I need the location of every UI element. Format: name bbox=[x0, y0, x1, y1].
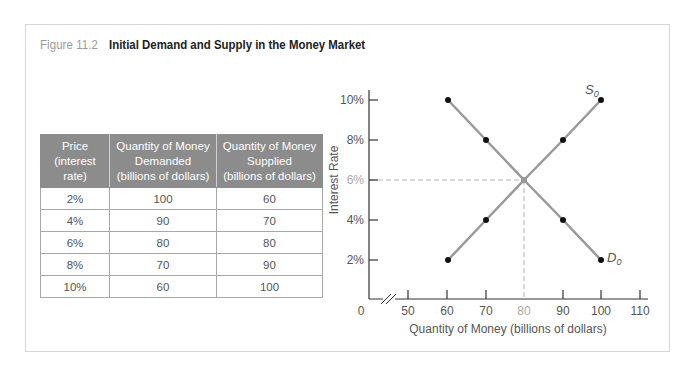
x-tick-label: 90 bbox=[556, 304, 570, 318]
supply-label: S0 bbox=[585, 82, 599, 99]
x-tick-label: 110 bbox=[630, 304, 649, 318]
x-tick-label: 0 bbox=[358, 304, 365, 318]
x-tick-label: 80 bbox=[517, 304, 531, 318]
demand-label: D0 bbox=[607, 250, 621, 267]
y-axis-title: Interest Rate bbox=[327, 145, 341, 214]
y-tick-label: 6% bbox=[347, 173, 365, 187]
y-tick-label: 4% bbox=[347, 213, 365, 227]
x-tick-label: 100 bbox=[591, 304, 611, 318]
x-tick-label: 60 bbox=[440, 304, 454, 318]
x-tick-label: 50 bbox=[401, 304, 415, 318]
y-ticks bbox=[369, 100, 378, 260]
y-tick-label: 10% bbox=[340, 93, 364, 107]
y-tick-label: 8% bbox=[347, 133, 365, 147]
equilibrium-point bbox=[521, 177, 527, 183]
money-market-chart: 10% 8% 6% 4% 2% 0 50 60 70 80 90 100 110… bbox=[0, 0, 696, 370]
x-tick-label: 70 bbox=[479, 304, 493, 318]
x-axis-title: Quantity of Money (billions of dollars) bbox=[409, 322, 606, 336]
y-tick-label: 2% bbox=[347, 253, 365, 267]
